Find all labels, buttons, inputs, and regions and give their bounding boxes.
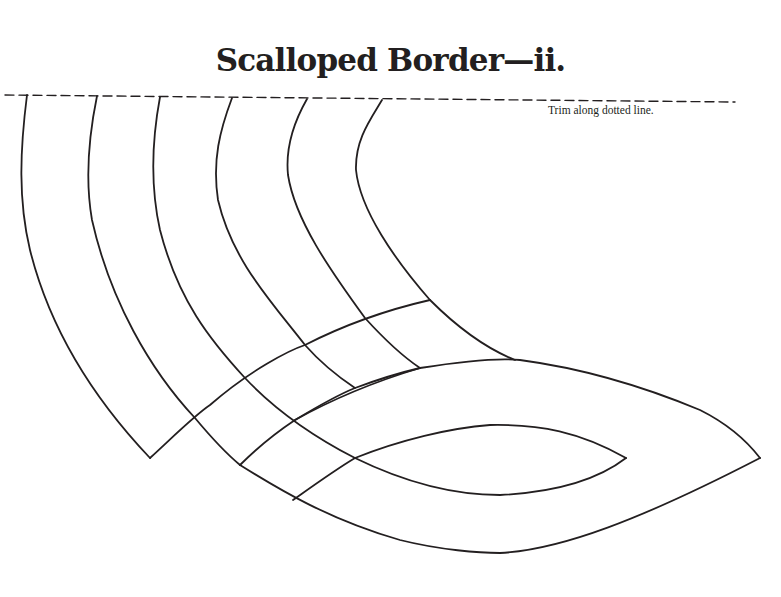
cross-line-lower xyxy=(240,368,420,465)
band-curve-6 xyxy=(356,100,515,360)
eye-outer-bottom xyxy=(240,458,760,553)
pattern-diagram xyxy=(0,0,781,597)
band-curve-4 xyxy=(216,98,355,388)
band-curve-1 xyxy=(21,95,150,458)
eye-inner-top xyxy=(355,425,626,458)
cross-line-inner xyxy=(293,458,355,500)
eye-outer-top xyxy=(295,359,760,458)
dotted-trim-line xyxy=(5,95,735,102)
band-curve-3 xyxy=(153,97,626,495)
band-curve-5 xyxy=(287,99,420,368)
